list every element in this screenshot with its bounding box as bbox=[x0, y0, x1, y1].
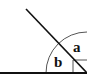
angle-label-a: a bbox=[73, 39, 81, 55]
angle-diagram: a b bbox=[0, 0, 87, 80]
angle-label-b: b bbox=[54, 54, 62, 70]
